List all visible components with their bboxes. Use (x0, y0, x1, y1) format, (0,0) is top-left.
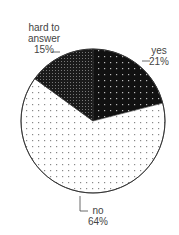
label-yes: yes 21% (146, 45, 172, 67)
label-no-value: 64% (86, 216, 110, 227)
label-no: no 64% (86, 205, 110, 227)
label-no-text: no (86, 205, 110, 216)
label-yes-value: 21% (146, 56, 172, 67)
label-hard-line1: hard to (24, 22, 64, 33)
pie-slices (21, 49, 165, 193)
pie-chart: hard to answer 15% yes 21% no 64% (0, 0, 179, 235)
label-hard-value: 15% (24, 44, 64, 55)
label-yes-text: yes (146, 45, 172, 56)
label-hard-to-answer: hard to answer 15% (24, 22, 64, 55)
label-hard-line2: answer (24, 33, 64, 44)
